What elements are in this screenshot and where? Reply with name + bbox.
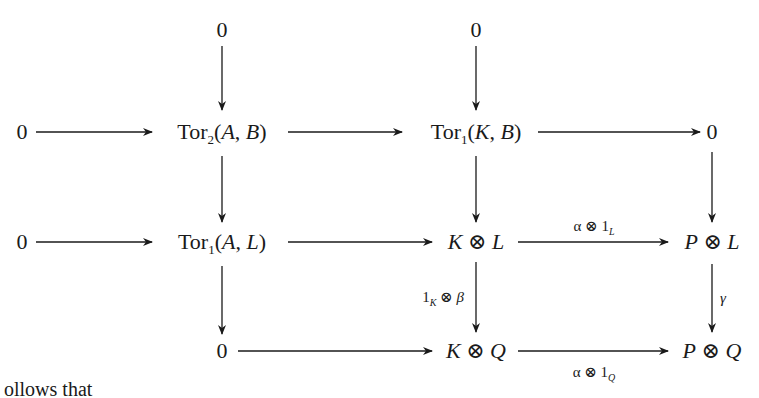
partial-caption-text: ollows that <box>4 378 92 398</box>
label-alpha-tensor-1L: α ⊗ 1L <box>574 217 615 235</box>
node-K-tensor-L: K ⊗ L <box>448 230 504 254</box>
node-K-tensor-Q: K ⊗ Q <box>446 339 506 363</box>
node-tor1-A-L: Tor1(A, L) <box>178 230 266 254</box>
label-gamma: γ <box>720 290 726 307</box>
label-1K-tensor-beta: 1K ⊗ β <box>422 288 464 306</box>
node-P-tensor-Q: P ⊗ Q <box>683 339 742 363</box>
arrows-layer <box>0 0 759 398</box>
node-top-zero-middle: 0 <box>471 18 482 42</box>
node-row3-zero: 0 <box>217 339 228 363</box>
node-top-zero-left: 0 <box>217 18 228 42</box>
node-row1-zero-right: 0 <box>707 120 718 144</box>
label-alpha-tensor-1Q: α ⊗ 1Q <box>573 363 616 381</box>
node-row2-zero-left: 0 <box>17 230 28 254</box>
node-row1-zero-left: 0 <box>17 120 28 144</box>
node-tor2-A-B: Tor2(A, B) <box>177 120 266 144</box>
node-P-tensor-L: P ⊗ L <box>684 230 739 254</box>
node-tor1-K-B: Tor1(K, B) <box>431 120 522 144</box>
